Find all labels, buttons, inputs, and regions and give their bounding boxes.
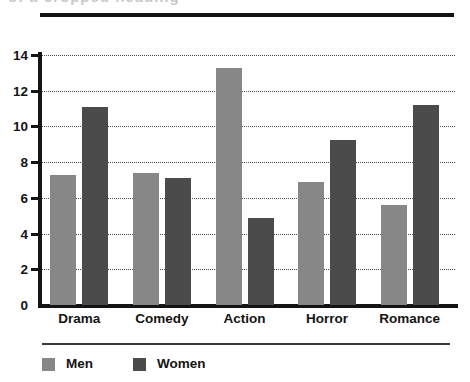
legend-swatch-women <box>133 358 146 371</box>
bar-drama-women <box>82 107 108 305</box>
y-axis-label-2: 2 <box>0 263 28 277</box>
bar-action-women <box>248 218 274 306</box>
y-tick-4 <box>31 233 39 236</box>
y-tick-8 <box>31 161 39 164</box>
legend-label-women: Women <box>157 357 206 371</box>
y-axis-label-8: 8 <box>0 156 28 170</box>
category-label-romance: Romance <box>360 312 460 326</box>
y-axis-label-10: 10 <box>0 120 28 134</box>
y-tick-6 <box>31 197 39 200</box>
y-tick-2 <box>31 268 39 271</box>
chart-legend: MenWomen <box>42 354 246 374</box>
legend-swatch-men <box>42 358 55 371</box>
bar-horror-women <box>330 140 356 305</box>
y-axis-label-4: 4 <box>0 228 28 242</box>
y-axis-label-14: 14 <box>0 49 28 63</box>
y-axis-label-12: 12 <box>0 85 28 99</box>
legend-item-men[interactable]: Men <box>42 357 93 371</box>
y-tick-10 <box>31 125 39 128</box>
gridline-14 <box>42 55 455 56</box>
y-axis-label-6: 6 <box>0 192 28 206</box>
bar-romance-men <box>381 205 407 305</box>
bar-horror-men <box>298 182 324 305</box>
gridline-12 <box>42 91 455 92</box>
y-tick-14 <box>31 54 39 57</box>
legend-label-men: Men <box>66 357 93 371</box>
bar-action-men <box>216 68 242 306</box>
legend-item-women[interactable]: Women <box>133 357 206 371</box>
bar-romance-women <box>413 105 439 305</box>
bar-comedy-men <box>133 173 159 305</box>
y-axis-label-0: 0 <box>0 299 28 313</box>
y-tick-12 <box>31 90 39 93</box>
legend-divider-rule <box>42 343 450 345</box>
bar-comedy-women <box>165 178 191 305</box>
grouped-bar-chart: 02468101214 DramaComedyActionHorrorRoman… <box>0 0 470 382</box>
bar-drama-men <box>50 175 76 305</box>
